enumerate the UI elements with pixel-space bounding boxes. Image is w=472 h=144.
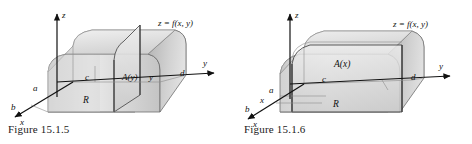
axis-label-y: y: [438, 61, 443, 71]
bound-label-d: d: [180, 68, 185, 78]
axis-label-y: y: [202, 58, 207, 68]
figure-pair-container: z y x a b c d R A(y) y z = f(x, y) Figur…: [0, 0, 472, 144]
surface-label: z = f(x, y): [157, 18, 193, 28]
cross-section-slice: [292, 45, 402, 112]
figure-15-1-5: z y x a b c d R A(y) y z = f(x, y) Figur…: [0, 0, 236, 144]
slice-variable-label: y: [148, 72, 153, 82]
slice-variable-label: x: [259, 95, 264, 105]
axis-label-z: z: [61, 10, 66, 20]
bound-label-c: c: [322, 74, 326, 84]
region-label-R: R: [82, 95, 89, 105]
figure-caption: Figure 15.1.6: [244, 123, 306, 135]
bound-label-c: c: [85, 72, 89, 82]
bound-label-a: a: [33, 83, 38, 93]
bound-label-a: a: [269, 85, 274, 95]
bound-label-d: d: [411, 72, 416, 82]
figure-15-1-6: z y x a b x c d R A(x) z = f(x, y) Figur…: [236, 0, 472, 144]
axis-label-z: z: [294, 10, 299, 20]
region-label-R: R: [332, 99, 339, 109]
cross-section-label: A(x): [333, 59, 350, 70]
cross-section-label: A(y): [121, 72, 138, 82]
figure-caption: Figure 15.1.5: [8, 123, 70, 135]
bound-label-b: b: [245, 104, 250, 114]
surface-label: z = f(x, y): [392, 19, 428, 29]
bound-label-b: b: [11, 102, 16, 112]
